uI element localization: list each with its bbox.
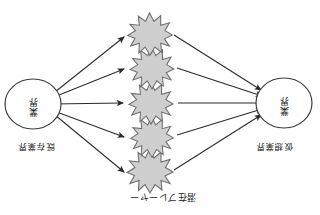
left-node-text-line-2: 界 — [271, 96, 297, 106]
left-node-text: 業 界 — [271, 96, 297, 116]
right-node-text: 業 界 — [20, 97, 46, 117]
burst-5 — [128, 13, 173, 56]
burst-1 — [127, 149, 173, 193]
arrows-right-to-bursts — [52, 37, 124, 172]
right-node-outer-label: 既存業界 — [6, 142, 66, 151]
left-node-text-line-1: 業 — [271, 106, 297, 116]
diagram-canvas: 潜在プレーヤー 仮想業界 既存業界 業 界 業 界 — [0, 0, 320, 215]
arrow-right-to-burst-4 — [54, 69, 124, 97]
burst-group — [127, 13, 174, 193]
right-node-text-line-1: 業 — [20, 107, 46, 117]
caption-potential-players: 潜在プレーヤー — [130, 191, 197, 204]
burst-4 — [130, 47, 174, 89]
arrow-right-to-burst-3 — [52, 103, 123, 104]
arrow-right-to-burst-5 — [55, 37, 124, 92]
arrow-right-to-burst-2 — [54, 111, 124, 137]
right-node-text-line-2: 界 — [20, 97, 46, 107]
left-node-outer-label: 仮想業界 — [244, 142, 304, 151]
